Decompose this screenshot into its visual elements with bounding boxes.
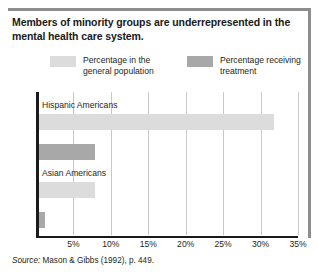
- x-tick-label-10pct: 10%: [102, 239, 119, 249]
- figure-title: Members of minority groups are underrepr…: [12, 16, 298, 43]
- x-tick-label-5pct: 5%: [67, 239, 79, 249]
- right-rule-divider: [308, 8, 311, 238]
- top-rule-divider: [8, 8, 311, 11]
- category-label-asian-americans: Asian Americans: [42, 168, 106, 178]
- legend-label-receiving-treatment: Percentage receiving treatment: [220, 55, 301, 77]
- figure-container: Members of minority groups are underrepr…: [0, 0, 318, 276]
- bar-asian-americans-percentage-receiving-treatment: [38, 212, 45, 228]
- x-tick-label-25pct: 25%: [215, 239, 232, 249]
- gridline-35: [298, 92, 299, 235]
- x-tick-label-20pct: 20%: [177, 239, 194, 249]
- x-tick-label-35pct: 35%: [289, 239, 306, 249]
- legend-label-general-population: Percentage in the general population: [83, 55, 154, 77]
- source-text: Mason & Gibbs (1992), p. 449.: [43, 256, 155, 265]
- bar-asian-americans-percentage-in-the-general-population: [38, 182, 95, 198]
- legend-item-receiving-treatment: Percentage receiving treatment: [187, 55, 301, 77]
- x-tick-label-15pct: 15%: [140, 239, 157, 249]
- chart-y-axis: [36, 92, 39, 238]
- source-prefix: Source:: [12, 256, 40, 265]
- chart-x-axis: [36, 236, 298, 239]
- legend-swatch-receiving-treatment: [187, 56, 213, 67]
- figure-source: Source: Mason & Gibbs (1992), p. 449.: [12, 256, 154, 265]
- bar-hispanic-americans-percentage-receiving-treatment: [38, 144, 95, 160]
- chart-legend: Percentage in the general population Per…: [12, 55, 304, 85]
- bar-hispanic-americans-percentage-in-the-general-population: [38, 114, 274, 130]
- legend-swatch-general-population: [50, 56, 76, 67]
- category-label-hispanic-americans: Hispanic Americans: [42, 100, 117, 110]
- x-tick-label-30pct: 30%: [252, 239, 269, 249]
- chart-plot-area: Hispanic AmericansAsian Americans 5%10%1…: [36, 92, 298, 238]
- legend-item-general-population: Percentage in the general population: [50, 55, 154, 77]
